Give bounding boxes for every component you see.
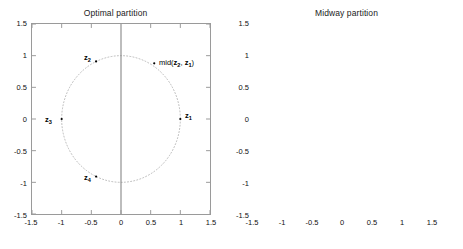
point-label-z3-optimal: z3 xyxy=(45,116,52,124)
ytick-3-midway: 0 xyxy=(225,115,249,124)
point-label-z4-optimal: z4 xyxy=(84,174,91,182)
panel-title-optimal: Optimal partition xyxy=(0,8,231,18)
xtick-5-optimal: 1 xyxy=(179,218,183,227)
xtick-2-optimal: -0.5 xyxy=(85,218,98,227)
xtick-2-midway: -0.5 xyxy=(306,218,319,227)
ytick-6-midway: -1.5 xyxy=(225,211,249,220)
figure-canvas: Optimal partition xyxy=(0,0,463,249)
marker-z3 xyxy=(61,118,63,120)
marker-mid xyxy=(153,62,155,64)
xtick-3-optimal: 0 xyxy=(119,218,123,227)
xtick-3-midway: 0 xyxy=(340,218,344,227)
marker-z4 xyxy=(95,176,97,178)
xtick-1-optimal: -1 xyxy=(58,218,65,227)
ytick-1-midway: 1 xyxy=(225,51,249,60)
marker-z1 xyxy=(179,118,181,120)
xtick-6-midway: 1.5 xyxy=(427,218,437,227)
ytick-0-midway: 1.5 xyxy=(225,19,249,28)
panel-title-midway: Midway partition xyxy=(231,8,462,18)
xtick-6-optimal: 1.5 xyxy=(206,218,216,227)
plot-area-optimal xyxy=(32,24,210,214)
ytick-1-optimal: 1 xyxy=(3,51,27,60)
axes-optimal: z2 z3 z4 z1 mid(z2, z1) xyxy=(31,23,211,215)
xtick-4-midway: 0.5 xyxy=(367,218,377,227)
ytick-2-optimal: 0.5 xyxy=(3,83,27,92)
ytick-6-optimal: -1.5 xyxy=(3,211,27,220)
ytick-2-midway: 0.5 xyxy=(225,83,249,92)
panel-midway-partition: Midway partition xyxy=(231,0,462,249)
ytick-4-optimal: -0.5 xyxy=(3,147,27,156)
ytick-4-midway: -0.5 xyxy=(225,147,249,156)
point-label-z1-optimal: z1 xyxy=(185,112,192,120)
marker-z2 xyxy=(95,60,97,62)
xtick-5-midway: 1 xyxy=(400,218,404,227)
ytick-3-optimal: 0 xyxy=(3,115,27,124)
ytick-0-optimal: 1.5 xyxy=(3,19,27,28)
panel-optimal-partition: Optimal partition xyxy=(0,0,231,249)
xtick-1-midway: -1 xyxy=(279,218,286,227)
xtick-4-optimal: 0.5 xyxy=(146,218,156,227)
point-label-mid-optimal: mid(z2, z1) xyxy=(159,59,194,67)
point-label-z2-optimal: z2 xyxy=(84,54,91,62)
ytick-5-optimal: -1 xyxy=(3,179,27,188)
ytick-5-midway: -1 xyxy=(225,179,249,188)
